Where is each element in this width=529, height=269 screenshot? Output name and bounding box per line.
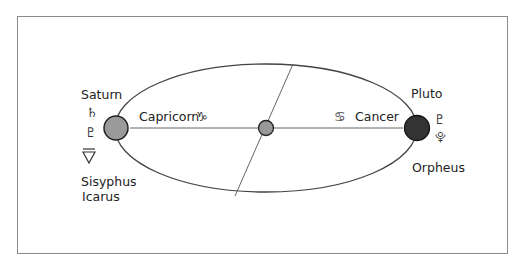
diamond-glyph-icon: ⯓ bbox=[435, 132, 446, 143]
capricorn-symbol-icon: ♑ bbox=[196, 110, 208, 123]
saturn-node bbox=[104, 116, 128, 140]
pluto-label: Pluto bbox=[411, 88, 442, 101]
pluto-glyph-icon: ♇ bbox=[85, 126, 97, 139]
orbit-diagram bbox=[0, 0, 529, 269]
center-node bbox=[259, 121, 274, 136]
figure-icarus: Icarus bbox=[82, 191, 120, 204]
figure-orpheus: Orpheus bbox=[412, 162, 465, 175]
cancer-symbol-icon: ♋ bbox=[334, 110, 346, 123]
cancer-label: Cancer bbox=[355, 111, 399, 124]
pluto-node bbox=[405, 116, 430, 141]
saturn-symbol-icon: ♄ bbox=[86, 106, 98, 119]
capricorn-label: Capricorn bbox=[139, 111, 199, 124]
figure-sisyphus: Sisyphus bbox=[81, 176, 137, 189]
saturn-label: Saturn bbox=[81, 89, 122, 102]
triangle-down-icon bbox=[83, 152, 95, 163]
pluto-symbol-icon: ♇ bbox=[434, 113, 446, 126]
